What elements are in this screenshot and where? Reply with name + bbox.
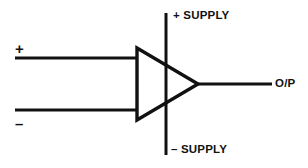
output-label: O/P bbox=[275, 78, 295, 90]
positive-supply-label: + SUPPLY bbox=[173, 10, 229, 22]
inverting-input-label: – bbox=[15, 116, 24, 131]
opamp-diagram: + – + SUPPLY – SUPPLY O/P bbox=[0, 0, 308, 168]
noninverting-input-label: + bbox=[15, 41, 24, 56]
negative-supply-label: – SUPPLY bbox=[171, 144, 227, 156]
circuit-schematic-canvas bbox=[0, 0, 308, 168]
